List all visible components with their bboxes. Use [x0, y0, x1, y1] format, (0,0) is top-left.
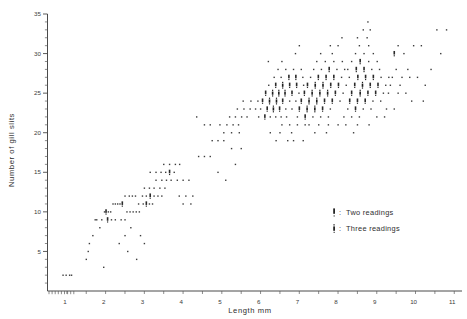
- data-point: [314, 132, 315, 133]
- y-axis-title: Number of gill slits: [7, 113, 16, 187]
- x-axis: 1234567891011: [48, 291, 463, 305]
- data-point: [359, 90, 361, 97]
- data-point: [250, 100, 251, 101]
- data-point: [372, 100, 373, 101]
- data-point: [237, 108, 238, 109]
- data-point: [142, 195, 143, 196]
- data-point: [337, 45, 338, 46]
- data-point: [311, 90, 313, 97]
- data-point: [282, 82, 284, 89]
- data-point: [127, 251, 128, 252]
- data-point: [136, 211, 137, 212]
- data-point: [326, 132, 327, 133]
- data-point: [318, 124, 319, 125]
- data-point: [380, 77, 381, 78]
- data-point: [335, 91, 337, 96]
- data-point: [343, 116, 344, 117]
- data-point: [357, 124, 358, 125]
- y-tick-label: 15: [34, 168, 41, 175]
- data-point: [136, 259, 137, 260]
- y-tick-label: 25: [34, 89, 41, 96]
- data-point: [196, 116, 197, 117]
- data-point: [368, 45, 369, 46]
- data-point: [132, 195, 133, 196]
- data-point: [182, 203, 183, 204]
- data-point: [129, 211, 130, 212]
- data-point: [124, 235, 125, 236]
- data-point: [351, 116, 352, 117]
- data-point: [298, 92, 299, 93]
- data-point: [295, 100, 296, 101]
- data-point: [423, 100, 424, 101]
- data-point: [293, 69, 294, 70]
- data-point: [336, 69, 337, 70]
- data-point: [368, 61, 369, 62]
- data-point: [312, 116, 313, 117]
- data-point: [219, 124, 220, 125]
- data-point: [282, 98, 284, 103]
- data-point: [295, 53, 296, 54]
- data-point: [108, 211, 109, 212]
- data-point: [281, 124, 282, 125]
- data-point: [149, 193, 151, 198]
- data-point: [155, 172, 156, 173]
- data-point: [165, 172, 166, 173]
- data-point: [344, 69, 345, 70]
- data-point: [291, 108, 292, 109]
- data-point: [347, 108, 348, 109]
- data-point: [89, 243, 90, 244]
- data-point: [388, 92, 389, 93]
- data-point: [304, 91, 306, 96]
- data-point: [210, 156, 211, 157]
- three-readings-marker: [333, 224, 335, 233]
- data-point: [138, 203, 139, 204]
- data-point: [161, 180, 162, 181]
- data-point: [295, 75, 297, 80]
- data-point: [289, 100, 290, 101]
- data-point: [373, 75, 375, 80]
- legend-entry-two-readings: : Two readings: [333, 208, 393, 217]
- data-point: [153, 195, 154, 196]
- data-point: [357, 98, 359, 103]
- data-point: [120, 219, 121, 220]
- data-point: [330, 108, 331, 109]
- data-point: [217, 140, 218, 141]
- data-point: [399, 85, 400, 86]
- data-point: [119, 203, 120, 204]
- data-point: [140, 235, 141, 236]
- data-point: [146, 201, 148, 206]
- data-point: [306, 106, 308, 113]
- data-point: [291, 132, 292, 133]
- data-point: [376, 116, 377, 117]
- data-point: [243, 108, 244, 109]
- data-point: [110, 211, 111, 212]
- data-point: [269, 98, 271, 105]
- data-point: [314, 82, 316, 89]
- data-point: [386, 108, 387, 109]
- data-point: [280, 77, 281, 78]
- data-point: [316, 61, 317, 62]
- data-point: [241, 148, 242, 149]
- x-tick-label: 1: [63, 298, 67, 305]
- data-point: [384, 116, 385, 117]
- data-point: [255, 108, 256, 109]
- data-point: [367, 91, 369, 96]
- data-point: [155, 180, 156, 181]
- data-point: [301, 69, 302, 70]
- data-point: [363, 53, 364, 54]
- data-point: [149, 203, 150, 204]
- data-point: [302, 77, 303, 78]
- data-point: [144, 243, 145, 244]
- data-point: [71, 275, 72, 276]
- data-point: [373, 53, 374, 54]
- data-point: [325, 75, 327, 80]
- x-tick-label: 7: [296, 298, 300, 305]
- data-point: [413, 45, 414, 46]
- data-point: [262, 98, 264, 103]
- data-point: [354, 83, 356, 88]
- data-point: [289, 83, 291, 88]
- data-point: [421, 45, 422, 46]
- data-point: [308, 98, 310, 105]
- data-point: [239, 132, 240, 133]
- data-point: [284, 90, 286, 97]
